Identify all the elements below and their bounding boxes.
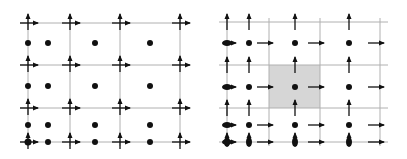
scalar-dot xyxy=(92,139,98,145)
scalar-dot xyxy=(92,122,98,128)
scalar-dot xyxy=(45,83,51,89)
scalar-dot xyxy=(147,122,153,128)
scalar-dot xyxy=(246,40,252,46)
scalar-dot xyxy=(45,122,51,128)
scalar-dot xyxy=(346,122,352,128)
scalar-dot xyxy=(45,139,51,145)
scalar-dot xyxy=(25,83,31,89)
scalar-dot xyxy=(147,83,153,89)
scalar-dot xyxy=(246,122,252,128)
staggered-grid-diagram xyxy=(0,0,407,159)
scalar-dot xyxy=(292,84,298,90)
scalar-dot xyxy=(147,139,153,145)
scalar-dot xyxy=(25,122,31,128)
scalar-dot xyxy=(346,40,352,46)
scalar-dot xyxy=(25,40,31,46)
scalar-dot xyxy=(45,40,51,46)
scalar-dot xyxy=(147,40,153,46)
scalar-dot xyxy=(292,122,298,128)
scalar-dot xyxy=(92,83,98,89)
right-panel-staggered-grid xyxy=(219,14,388,147)
scalar-dot xyxy=(246,84,252,90)
scalar-dot xyxy=(346,84,352,90)
scalar-dot xyxy=(292,40,298,46)
left-panel-collocated-grid xyxy=(20,14,190,149)
scalar-dot xyxy=(92,40,98,46)
scalar-dot xyxy=(25,139,32,146)
